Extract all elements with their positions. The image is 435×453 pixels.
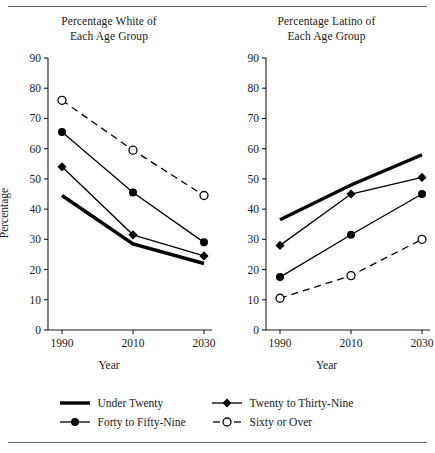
legend-label-forty-to-fifty-nine: Forty to Fifty-Nine [98, 416, 186, 428]
chart-title-latino-line1: Percentage Latino of [278, 15, 376, 27]
svg-text:2030: 2030 [411, 337, 434, 349]
x-axis-label-white: Year [0, 359, 218, 371]
chart-panel-white: Percentage White of Each Age Group Perce… [0, 12, 218, 387]
svg-text:20: 20 [30, 264, 42, 276]
svg-text:20: 20 [248, 264, 260, 276]
svg-text:90: 90 [30, 52, 42, 64]
plot-area-white: 0102030405060708090199020102030 [22, 52, 218, 362]
chart-figure: Percentage White of Each Age Group Perce… [0, 12, 435, 387]
legend-label-under-twenty: Under Twenty [98, 397, 164, 409]
svg-text:60: 60 [30, 143, 42, 155]
legend-label-twenty-to-thirty-nine: Twenty to Thirty-Nine [250, 397, 354, 409]
svg-text:30: 30 [248, 233, 260, 245]
svg-text:0: 0 [35, 324, 41, 336]
legend-item-sixty-or-over: Sixty or Over [210, 416, 378, 428]
svg-text:2010: 2010 [340, 337, 363, 349]
legend-item-twenty-to-thirty-nine: Twenty to Thirty-Nine [210, 397, 378, 409]
svg-text:50: 50 [248, 173, 260, 185]
svg-text:70: 70 [30, 112, 42, 124]
svg-text:90: 90 [248, 52, 260, 64]
bottom-divider-rule [8, 442, 427, 443]
legend-item-under-twenty: Under Twenty [58, 397, 210, 409]
x-axis-label-latino: Year [218, 359, 435, 371]
chart-title-white-line1: Percentage White of [61, 15, 157, 27]
chart-title-white-line2: Each Age Group [0, 29, 218, 44]
y-axis-label-white: Percentage [0, 188, 10, 238]
chart-title-latino: Percentage Latino of Each Age Group [218, 14, 435, 44]
plot-area-latino: 0102030405060708090199020102030 [240, 52, 435, 362]
svg-text:30: 30 [30, 233, 42, 245]
svg-text:80: 80 [248, 82, 260, 94]
chart-title-white: Percentage White of Each Age Group [0, 14, 218, 44]
svg-text:2010: 2010 [122, 337, 145, 349]
top-divider-rule [8, 6, 427, 7]
svg-text:60: 60 [248, 143, 260, 155]
svg-text:40: 40 [248, 203, 260, 215]
svg-text:1990: 1990 [269, 337, 292, 349]
filled-circle-icon [58, 416, 92, 428]
filled-diamond-icon [210, 397, 244, 409]
legend-label-sixty-or-over: Sixty or Over [250, 416, 313, 428]
svg-text:1990: 1990 [51, 337, 74, 349]
svg-text:10: 10 [248, 294, 260, 306]
legend-row-1: Under Twenty Twenty to Thirty-Nine [0, 393, 435, 412]
svg-text:0: 0 [253, 324, 259, 336]
svg-text:2030: 2030 [193, 337, 216, 349]
svg-text:80: 80 [30, 82, 42, 94]
svg-text:70: 70 [248, 112, 260, 124]
legend-item-forty-to-fifty-nine: Forty to Fifty-Nine [58, 416, 210, 428]
thick-line-icon [58, 397, 92, 409]
svg-text:40: 40 [30, 203, 42, 215]
svg-text:50: 50 [30, 173, 42, 185]
chart-panel-latino: Percentage Latino of Each Age Group 0102… [218, 12, 435, 387]
chart-legend: Under Twenty Twenty to Thirty-Nine Forty… [0, 393, 435, 431]
svg-text:10: 10 [30, 294, 42, 306]
legend-row-2: Forty to Fifty-Nine Sixty or Over [0, 412, 435, 431]
chart-title-latino-line2: Each Age Group [218, 29, 435, 44]
open-circle-icon [210, 416, 244, 428]
